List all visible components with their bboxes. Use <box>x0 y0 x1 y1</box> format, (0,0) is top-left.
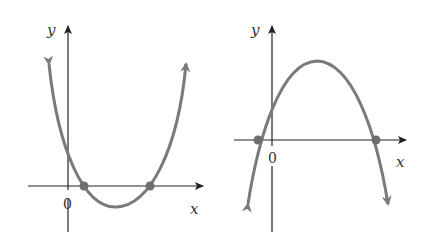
graph-upward-parabola: y x 0 <box>28 21 203 232</box>
graphs-canvas: y x 0 y x 0 <box>0 0 428 237</box>
zero-point <box>80 182 89 191</box>
y-axis-label: y <box>46 21 56 39</box>
y-axis-label: y <box>250 21 260 39</box>
graph-downward-parabola: y x 0 <box>234 21 406 232</box>
x-axis-label: x <box>190 200 199 218</box>
x-axis-label: x <box>396 153 405 171</box>
origin-label: 0 <box>63 196 72 212</box>
origin-label: 0 <box>268 150 277 166</box>
zero-point <box>146 182 155 191</box>
parabola-curve <box>248 61 388 204</box>
zero-point <box>372 136 381 145</box>
zero-point <box>254 136 263 145</box>
